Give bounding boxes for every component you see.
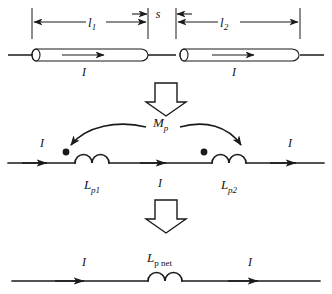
dimension-extension-lines <box>32 8 300 39</box>
rod-right-cap-front <box>292 49 299 61</box>
inductor-lp2-coil <box>212 155 246 164</box>
middle-current-label-mid: I <box>157 176 163 190</box>
bottom-current-label-in: I <box>81 255 87 269</box>
rod-left-cap-front <box>141 49 148 61</box>
figure-root: l1 s l2 <box>0 0 332 294</box>
rod-left-current-label: I <box>81 65 87 79</box>
diagram-canvas: l1 s l2 <box>0 0 332 294</box>
dimension-l1-label: l1 <box>88 15 96 32</box>
inductor-lpnet-label: Lp net <box>146 250 172 268</box>
inductor-lp2-label: Lp2 <box>220 177 238 195</box>
bottom-current-label-out: I <box>247 255 253 269</box>
middle-current-label-in: I <box>39 136 45 150</box>
mutual-inductance-label: Mp <box>152 115 169 133</box>
block-arrow-down-icon-bottom <box>146 200 186 233</box>
dimension-s-label: s <box>156 7 161 21</box>
block-arrow-down-icon-top <box>146 83 186 116</box>
inductor-lpnet-coil <box>148 273 182 282</box>
block-arrow-bottom-outline <box>146 200 186 233</box>
block-arrow-top-outline <box>146 83 186 116</box>
middle-current-label-out: I <box>287 136 293 150</box>
inductor-lp1-label: Lp1 <box>83 177 100 195</box>
inductor-lp1-coil <box>75 155 109 164</box>
polarity-dot-lp1 <box>63 149 70 156</box>
circuit-bottom <box>12 273 320 282</box>
circuit-middle <box>8 155 324 164</box>
dimension-l2-label: l2 <box>220 15 229 32</box>
rod-right-current-label: I <box>231 65 237 79</box>
mutual-arrow-left <box>71 124 146 145</box>
rod-right-end-ellipse <box>180 49 188 61</box>
polarity-dot-lp2 <box>201 149 208 156</box>
mutual-arrow-right <box>180 124 241 145</box>
rod-assembly <box>8 49 324 61</box>
rod-left-end-ellipse <box>32 49 40 61</box>
